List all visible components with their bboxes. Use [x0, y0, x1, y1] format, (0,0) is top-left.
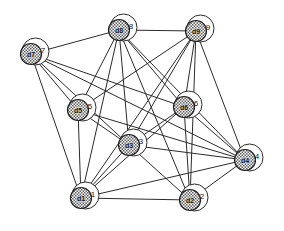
node-index-label: 1 — [91, 190, 96, 199]
node-id-label: d7 — [27, 51, 35, 58]
node-index-label: 4 — [255, 152, 260, 161]
graph-node-d7[interactable]: d77 — [21, 38, 50, 65]
node-index-label: 6 — [194, 99, 199, 108]
node-id-label: d1 — [77, 195, 85, 202]
node-id-label: d9 — [192, 28, 200, 35]
node-id-label: d5 — [74, 107, 82, 114]
node-index-label: 9 — [206, 23, 211, 32]
graph-node-d9[interactable]: d99 — [186, 15, 215, 42]
graph-canvas: d11d22d33d44d55d66d77d88d99 — [0, 0, 284, 231]
graph-node-d8[interactable]: d88 — [109, 14, 138, 41]
node-id-label: d2 — [186, 197, 194, 204]
graph-edge — [196, 31, 245, 160]
graph-node-d6[interactable]: d66 — [174, 91, 203, 118]
node-index-label: 3 — [139, 137, 144, 146]
node-id-label: d4 — [241, 157, 249, 164]
node-index-label: 5 — [88, 102, 93, 111]
graph-edge — [81, 160, 245, 198]
graph-edge — [78, 110, 245, 160]
graph-node-d5[interactable]: d55 — [68, 94, 97, 121]
network-graph-figure: d11d22d33d44d55d66d77d88d99 — [0, 0, 284, 231]
node-index-label: 8 — [129, 22, 134, 31]
node-index-label: 7 — [41, 46, 46, 55]
graph-node-d2[interactable]: d22 — [180, 184, 209, 211]
edge-layer — [31, 30, 245, 200]
node-index-label: 2 — [200, 192, 205, 201]
node-id-label: d6 — [180, 104, 188, 111]
graph-node-d3[interactable]: d33 — [119, 129, 148, 156]
graph-node-d4[interactable]: d44 — [235, 144, 264, 171]
graph-node-d1[interactable]: d11 — [71, 182, 100, 209]
node-id-label: d8 — [115, 27, 123, 34]
node-id-label: d3 — [125, 142, 133, 149]
